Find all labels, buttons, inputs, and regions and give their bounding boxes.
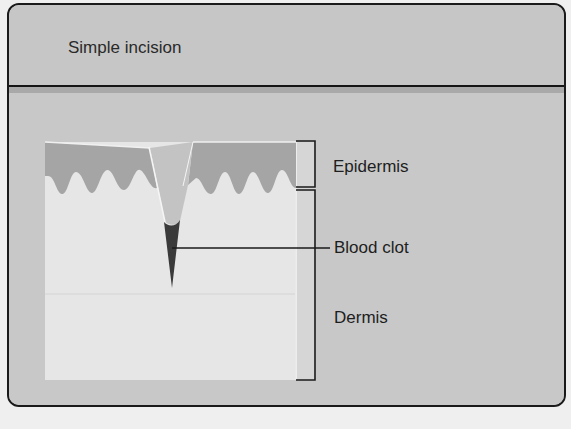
skin-incision-diagram (0, 0, 571, 429)
skin-side-strip (296, 142, 316, 380)
blood-clot-label: Blood clot (334, 238, 409, 258)
epidermis-label: Epidermis (333, 157, 409, 177)
dermis-label: Dermis (334, 308, 388, 328)
